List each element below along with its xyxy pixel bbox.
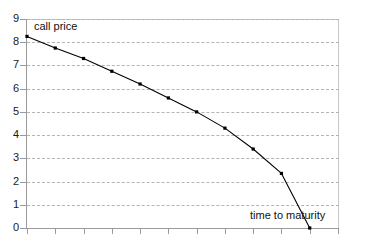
gridline: [27, 205, 339, 206]
y-tick-mark: [20, 135, 26, 136]
y-tick-mark: [20, 112, 26, 113]
y-tick-mark: [20, 65, 26, 66]
y-tick-label: 3: [3, 152, 19, 163]
x-tick-mark: [197, 229, 198, 234]
y-tick-mark: [20, 158, 26, 159]
y-axis-title-call-price: call price: [34, 20, 77, 32]
gridline: [27, 158, 339, 159]
x-axis-title-time-to-maturity: time to maturity: [250, 209, 325, 221]
x-tick-mark: [84, 229, 85, 234]
x-tick-mark: [338, 229, 339, 234]
x-tick-mark: [55, 229, 56, 234]
y-tick-mark: [20, 19, 26, 20]
y-tick-mark: [20, 42, 26, 43]
gridline: [27, 65, 339, 66]
y-tick-label: 8: [3, 36, 19, 47]
y-tick-label: 4: [3, 129, 19, 140]
x-tick-mark: [310, 229, 311, 234]
gridline: [27, 89, 339, 90]
x-tick-mark: [281, 229, 282, 234]
y-tick-label: 2: [3, 176, 19, 187]
y-tick-mark: [20, 182, 26, 183]
y-tick-label: 6: [3, 83, 19, 94]
y-tick-label: 9: [3, 13, 19, 24]
gridline: [27, 112, 339, 113]
y-tick-mark: [20, 205, 26, 206]
y-tick-mark: [20, 228, 26, 229]
plot-area-frame: [26, 19, 339, 229]
x-axis-line: [20, 228, 339, 229]
chart-container: 0123456789 call price time to maturity: [0, 0, 365, 244]
x-tick-mark: [253, 229, 254, 234]
gridline: [27, 42, 339, 43]
y-axis-line: [26, 19, 27, 229]
y-tick-label: 5: [3, 106, 19, 117]
x-tick-mark: [168, 229, 169, 234]
y-tick-mark: [20, 89, 26, 90]
x-tick-mark: [27, 229, 28, 234]
y-tick-label: 0: [3, 222, 19, 233]
gridline: [27, 135, 339, 136]
gridline: [27, 182, 339, 183]
x-tick-mark: [225, 229, 226, 234]
y-tick-label: 7: [3, 59, 19, 70]
x-tick-mark: [140, 229, 141, 234]
y-tick-label: 1: [3, 199, 19, 210]
x-tick-mark: [112, 229, 113, 234]
